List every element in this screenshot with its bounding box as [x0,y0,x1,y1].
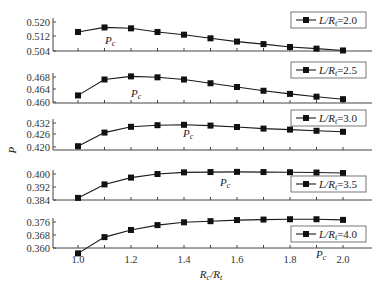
data-point-marker [314,46,320,52]
x-tick-label: 1.8 [283,254,296,265]
data-point-marker [102,181,108,187]
data-point-marker [155,29,161,35]
series-line [78,76,343,99]
data-point-marker [155,222,161,228]
data-point-marker [340,129,346,135]
y-tick-label: 0.460 [26,97,50,108]
data-point-marker [128,227,134,233]
y-tick-label: 0.420 [26,142,50,153]
legend-marker-icon [303,115,309,121]
data-point-marker [261,169,267,175]
data-point-marker [181,32,187,38]
data-point-marker [102,24,108,30]
pc-annotation: Pc [104,34,116,48]
data-point-marker [287,216,293,222]
legend-2: L/Rt=2.5 [291,62,366,78]
data-point-marker [234,39,240,45]
y-tick-label: 0.384 [26,195,50,206]
legend-label: L/Rt=2.0 [318,14,358,28]
y-tick-label: 0.432 [26,118,50,129]
legend-label: L/Rt=3.5 [318,178,358,192]
legend-4: L/Rt=3.5 [291,176,366,192]
y-tick-label: 0.392 [26,182,50,193]
data-point-marker [287,44,293,50]
chart-panels: 0.5200.5120.504PcL/Rt=2.00.4680.4640.460… [26,12,372,262]
data-point-marker [128,73,134,79]
legend-1: L/Rt=2.0 [291,12,366,28]
data-point-marker [128,124,134,130]
data-point-marker [287,127,293,133]
legend-label: L/Rt=2.5 [318,64,358,78]
panel-4: 0.4000.3920.384PcL/Rt=3.5 [26,169,372,206]
data-point-marker [314,170,320,176]
panel-3: 0.4320.4260.420PcL/Rt=3.0 [26,110,372,153]
data-point-marker [314,128,320,134]
data-point-marker [287,91,293,97]
legend-marker-icon [303,181,309,187]
y-tick-label: 0.468 [26,72,50,83]
legend-marker-icon [303,17,309,23]
data-point-marker [340,47,346,53]
data-point-marker [234,217,240,223]
data-point-marker [234,124,240,130]
data-point-marker [208,218,214,224]
data-point-marker [261,88,267,94]
data-point-marker [234,84,240,90]
y-tick-label: 0.376 [26,217,50,228]
y-tick-label: 0.400 [26,169,50,180]
data-point-marker [340,217,346,223]
legend-5: L/Rt=4.0 [291,226,366,242]
data-point-marker [261,126,267,132]
data-point-marker [155,122,161,128]
y-tick-label: 0.360 [26,243,50,254]
legend-label: L/Rt=3.0 [318,112,358,126]
data-point-marker [155,171,161,177]
data-point-marker [261,217,267,223]
data-point-marker [208,123,214,129]
pc-annotation: Pc [219,176,231,190]
data-point-marker [314,216,320,222]
y-tick-label: 0.426 [26,129,50,140]
pc-annotation: Pc [315,248,327,262]
data-point-marker [102,234,108,240]
x-axis-label: Rc/Rt [199,268,223,282]
y-tick-label: 0.464 [26,84,50,95]
x-axis: 1.01.21.41.61.82.0 [71,254,349,265]
data-point-marker [102,77,108,83]
data-point-marker [75,143,81,149]
data-point-marker [155,74,161,80]
data-point-marker [208,80,214,86]
data-point-marker [181,77,187,83]
data-point-marker [314,94,320,100]
legend-marker-icon [303,231,309,237]
data-point-marker [208,35,214,41]
x-tick-label: 1.2 [124,254,137,265]
data-point-marker [75,29,81,35]
panel-1: 0.5200.5120.504PcL/Rt=2.0 [26,12,372,57]
data-point-marker [287,169,293,175]
x-tick-label: 1.4 [177,254,191,265]
x-tick-label: 1.0 [71,254,84,265]
legend-marker-icon [303,67,309,73]
pc-annotation: Pc [182,127,194,141]
data-point-marker [75,92,81,98]
y-axis-label: P [6,146,18,154]
x-tick-label: 2.0 [336,254,349,265]
y-tick-label: 0.504 [26,46,50,57]
data-point-marker [340,170,346,176]
y-tick-label: 0.520 [26,17,50,28]
data-point-marker [234,169,240,175]
data-point-marker [128,25,134,31]
legend-label: L/Rt=4.0 [318,228,358,242]
y-tick-label: 0.512 [26,31,50,42]
data-point-marker [261,41,267,47]
stacked-line-chart: 0.5200.5120.504PcL/Rt=2.00.4680.4640.460… [0,0,384,293]
data-point-marker [128,175,134,181]
data-point-marker [181,169,187,175]
data-point-marker [102,130,108,136]
data-point-marker [208,169,214,175]
y-tick-label: 0.368 [26,230,50,241]
data-point-marker [181,219,187,225]
legend-3: L/Rt=3.0 [291,110,366,126]
panel-2: 0.4680.4640.460PcL/Rt=2.5 [26,62,372,108]
